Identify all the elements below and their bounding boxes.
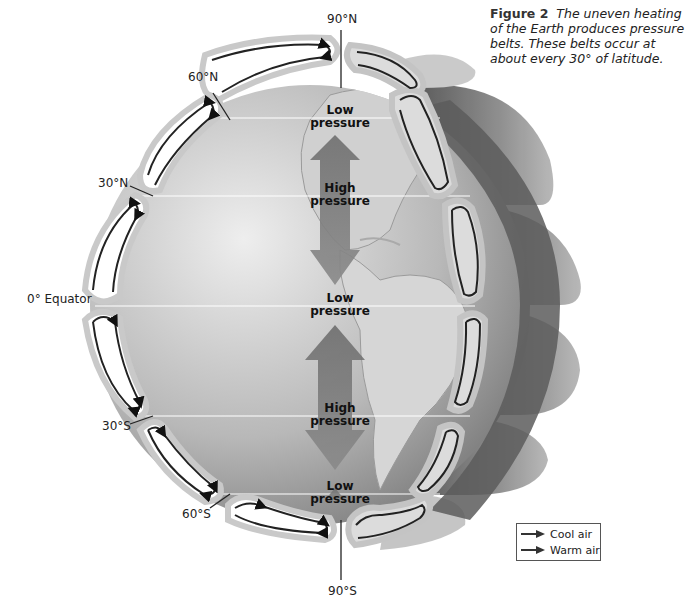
pressure-label-low-60n: Low pressure — [305, 104, 375, 130]
legend: Cool air Warm air — [516, 523, 601, 561]
label-30s: 30°S — [102, 419, 131, 433]
label-equator: 0° Equator — [27, 292, 92, 306]
figure-label: Figure 2 — [490, 6, 548, 21]
pressure-label-low-60s: Low pressure — [305, 480, 375, 506]
pressure-belts-diagram: Figure 2 The uneven heating of the Earth… — [0, 0, 692, 603]
pressure-label-low-equator: Low pressure — [305, 292, 375, 318]
label-30n: 30°N — [98, 176, 128, 190]
label-60s: 60°S — [182, 507, 211, 521]
pressure-label-high-30n: High pressure — [305, 182, 375, 208]
figure-caption: Figure 2 The uneven heating of the Earth… — [490, 6, 690, 66]
label-60n: 60°N — [188, 70, 218, 84]
label-90s: 90°S — [328, 584, 357, 598]
label-90n: 90°N — [327, 12, 357, 26]
cool-air-arrow-icon — [521, 530, 545, 538]
legend-item-cool-air: Cool air — [521, 527, 592, 541]
warm-air-arrow-icon — [521, 546, 545, 554]
legend-item-warm-air: Warm air — [521, 543, 600, 557]
pressure-label-high-30s: High pressure — [305, 402, 375, 428]
